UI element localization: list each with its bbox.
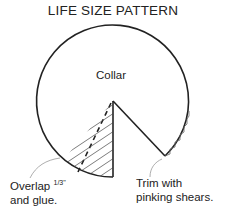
overlap-hatching <box>60 91 120 212</box>
overlap-leader <box>30 158 60 178</box>
collar-label: Collar <box>96 68 126 82</box>
trim-label-line2: pinking shears. <box>136 191 213 203</box>
overlap-label-line1: Overlap <box>10 180 50 192</box>
trim-leader <box>150 159 162 177</box>
overlap-label-line2: and glue. <box>10 194 57 206</box>
pinking-edge <box>165 111 189 156</box>
cut-line-diagonal <box>113 101 165 156</box>
trim-label-line1: Trim with <box>136 177 182 189</box>
overlap-fraction: 1/3" <box>53 179 65 186</box>
trim-label: Trim with pinking shears. <box>136 176 213 204</box>
overlap-label: Overlap 1/3" and glue. <box>10 176 66 207</box>
